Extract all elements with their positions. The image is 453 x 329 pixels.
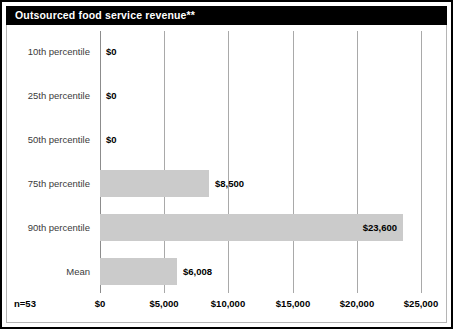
bar-value-label: $0 [106,75,117,117]
bar-row: 90th percentile $23,600 [6,207,447,249]
category-label: 90th percentile [6,207,90,249]
x-tick-label: $15,000 [261,298,325,309]
category-label: 50th percentile [6,119,90,161]
chart-title: Outsourced food service revenue** [15,9,195,21]
bar-row: 50th percentile $0 [6,119,447,161]
bar-row: 75th percentile $8,500 [6,163,447,205]
category-label: 10th percentile [6,31,90,73]
x-axis: n=53 $0 $5,000 $10,000 $15,000 $20,000 $… [6,293,447,323]
bar-mean [100,258,177,285]
category-label: 75th percentile [6,163,90,205]
bar-row: Mean $6,008 [6,251,447,293]
category-label: 25th percentile [6,75,90,117]
x-tick-label: $25,000 [389,298,453,309]
x-tick-label: $10,000 [196,298,260,309]
x-tick-label: $20,000 [325,298,389,309]
bar-value-label: $0 [106,31,117,73]
category-label: Mean [6,251,90,293]
sample-size-label: n=53 [14,298,36,309]
x-tick-label: $0 [80,298,120,309]
x-tick-label: $5,000 [134,298,194,309]
bar-row: 10th percentile $0 [6,31,447,73]
bar-value-label: $0 [106,119,117,161]
bar-75th-percentile [100,170,209,197]
bar-row: 25th percentile $0 [6,75,447,117]
chart-title-bar: Outsourced food service revenue** [6,6,447,25]
bar-value-label: $6,008 [183,251,212,293]
plot-area: 10th percentile $0 25th percentile $0 50… [6,25,447,323]
chart-figure: Outsourced food service revenue** 10th p… [0,0,453,329]
bar-value-label: $23,600 [303,207,397,249]
figure-inner: Outsourced food service revenue** 10th p… [6,6,447,323]
bar-value-label: $8,500 [215,163,244,205]
